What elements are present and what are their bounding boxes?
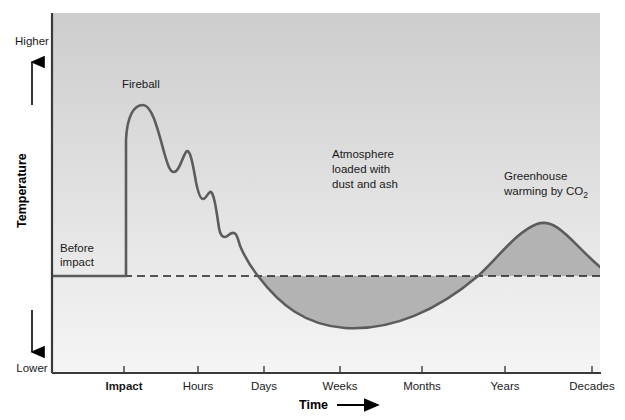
dust-and-ash-label-line1: Atmosphere [332,148,394,160]
greenhouse-label-subscript: 2 [583,190,588,200]
greenhouse-label-line1: Greenhouse [504,170,567,182]
impact-temperature-figure: Impact Hours Days Weeks Months Years Dec… [0,0,625,420]
x-tick-label-decades: Decades [569,380,615,392]
dust-and-ash-label-line3: dust and ash [332,178,398,190]
chart-svg: Impact Hours Days Weeks Months Years Dec… [0,0,625,420]
x-tick-label-impact: Impact [105,380,142,392]
before-impact-label-line2: impact [60,256,95,268]
x-axis-title: Time [299,398,328,412]
y-axis-higher-label: Higher [15,35,49,47]
x-tick-label-years: Years [491,380,520,392]
fireball-label: Fireball [122,78,160,90]
x-tick-label-hours: Hours [183,380,214,392]
x-tick-label-months: Months [403,380,441,392]
x-tick-label-weeks: Weeks [323,380,358,392]
x-tick-label-days: Days [251,380,277,392]
greenhouse-label-line2-text: warming by CO [503,185,583,197]
y-axis-lower-label: Lower [16,362,47,374]
dust-and-ash-label-line2: loaded with [332,163,390,175]
y-axis-title: Temperature [15,153,29,228]
before-impact-label-line1: Before [60,242,94,254]
